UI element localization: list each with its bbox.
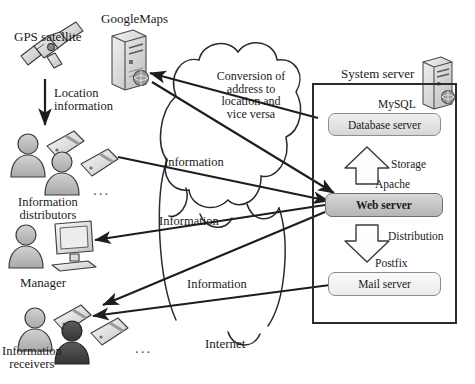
distributor-phone-2 <box>81 149 118 176</box>
manager-person-icon <box>9 225 43 268</box>
label-storage-flow: Storage <box>391 158 426 170</box>
distributors-ellipsis: ... <box>93 182 110 199</box>
googlemaps-server-icon <box>112 30 149 90</box>
label-manager: Manager <box>20 276 66 290</box>
label-gps-satellite: GPS satellite <box>14 30 82 44</box>
diagram-canvas: GPS satellite GoogleMaps Location inform… <box>0 0 475 384</box>
tag-apache: Apache <box>375 178 410 190</box>
label-system-server: System server <box>341 67 414 81</box>
mail-server-label: Mail server <box>358 278 411 290</box>
label-information-receivers: Information receivers <box>2 345 62 371</box>
label-information-flow-1: Information <box>164 156 224 169</box>
label-internet: Internet <box>205 337 245 351</box>
label-conversion-of-address: Conversion of address to location and vi… <box>196 70 306 120</box>
database-server-label: Database server <box>348 119 421 131</box>
tag-mysql: MySQL <box>378 98 416 110</box>
mail-server-node[interactable]: Mail server <box>328 272 441 296</box>
manager-computer-icon <box>52 221 96 271</box>
label-distribution-flow: Distribution <box>388 230 444 242</box>
receiver-phone-2 <box>91 318 128 345</box>
information-distributor-person-1 <box>11 134 45 177</box>
label-googlemaps: GoogleMaps <box>101 12 168 26</box>
web-server-label: Web server <box>356 199 412 211</box>
tag-postfix: Postfix <box>375 257 408 269</box>
information-distributor-person-2 <box>45 152 79 195</box>
database-server-node[interactable]: Database server <box>328 113 441 136</box>
label-information-flow-2: Information <box>159 215 219 228</box>
receivers-ellipsis: ... <box>135 340 152 357</box>
label-information-distributors: Information distributors <box>18 196 78 222</box>
web-server-node[interactable]: Web server <box>325 193 443 217</box>
label-location-information: Location information <box>54 87 113 113</box>
label-information-flow-3: Information <box>187 278 247 291</box>
